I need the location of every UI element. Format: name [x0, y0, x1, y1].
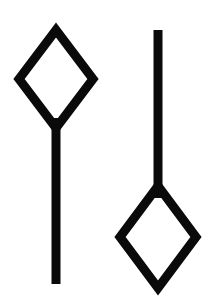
glyph-illustration [0, 0, 209, 301]
figure-canvas [0, 0, 209, 301]
